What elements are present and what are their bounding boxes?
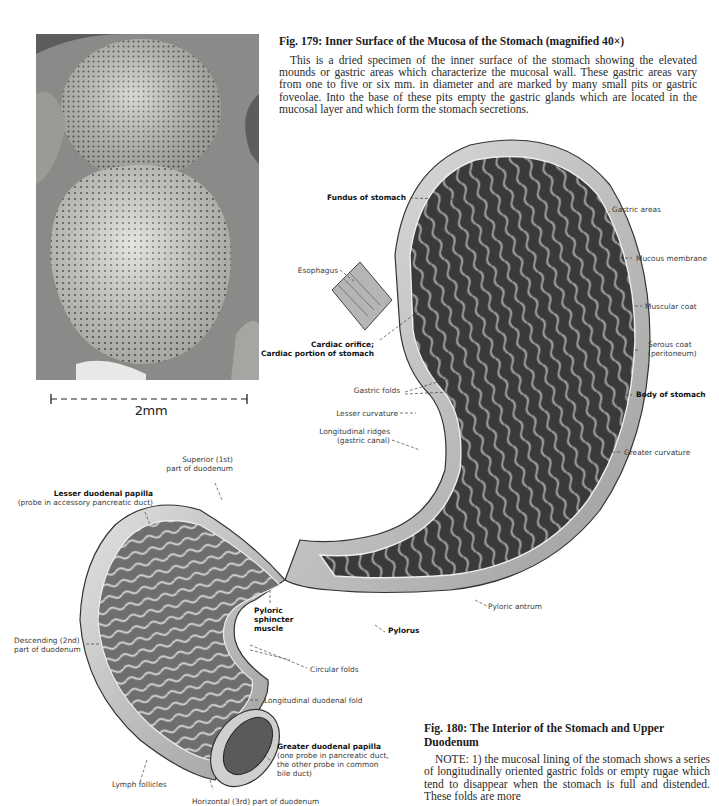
label-gastric-canal: (gastric canal) xyxy=(300,436,390,445)
label-lesser-curvature: Lesser curvature xyxy=(310,409,398,418)
label-pyloric-sphincter-3: muscle xyxy=(254,624,283,633)
label-lesser-papilla-probe: (probe in accessory pancreatic duct) xyxy=(0,498,153,507)
fig179-title: Fig. 179: Inner Surface of the Mucosa of… xyxy=(279,35,719,49)
fig180-title: Fig. 180: The Interior of the Stomach an… xyxy=(424,722,664,750)
label-lesser-duodenal-papilla: Lesser duodenal papilla xyxy=(0,489,153,498)
label-descending-part-1: Descending (2nd) xyxy=(14,636,80,645)
label-greater-papilla-note-3: bile duct) xyxy=(277,769,312,778)
label-esophagus: Esophagus xyxy=(270,266,338,275)
label-peritoneum: (peritoneum) xyxy=(648,349,697,358)
fig180-note: NOTE: 1) the mucosal lining of the stoma… xyxy=(424,753,710,802)
label-body-of-stomach: Body of stomach xyxy=(636,390,706,399)
label-greater-curvature: Greater curvature xyxy=(624,448,690,457)
label-greater-papilla-note-1: (one probe in pancreatic duct, xyxy=(277,751,389,760)
scale-label: 2mm xyxy=(128,403,174,418)
label-pyloric-sphincter-2: sphincter xyxy=(254,615,293,624)
label-greater-papilla-note-2: the other probe in common xyxy=(277,760,378,769)
fig179-description: This is a dried specimen of the inner su… xyxy=(279,54,697,115)
label-gastric-areas: Gastric areas xyxy=(612,205,661,214)
label-mucous-membrane: Mucous membrane xyxy=(636,254,707,263)
label-superior-part-duodenum-2: part of duodenum xyxy=(150,464,233,473)
label-serous-coat: Serous coat xyxy=(648,340,692,349)
label-cardiac-portion: Cardiac portion of stomach xyxy=(260,349,374,358)
label-fundus-of-stomach: Fundus of stomach xyxy=(300,193,406,202)
mucosa-micrograph xyxy=(36,34,259,380)
micrograph-image xyxy=(36,34,259,380)
label-muscular-coat: Muscular coat xyxy=(645,302,697,311)
label-gastric-folds: Gastric folds xyxy=(320,386,400,395)
label-circular-folds: Circular folds xyxy=(310,665,359,674)
label-pylorus: Pylorus xyxy=(388,626,419,635)
label-superior-part-duodenum-1: Superior (1st) xyxy=(150,455,233,464)
label-descending-part-2: part of duodenum xyxy=(14,645,81,654)
label-greater-duodenal-papilla: Greater duodenal papilla xyxy=(277,742,381,751)
label-cardiac-orifice: Cardiac orifice; xyxy=(260,340,374,349)
label-lymph-follicles: Lymph follicles xyxy=(112,780,167,789)
label-horizontal-part-cut-off: Horizontal (3rd) part of duodenum xyxy=(192,797,319,806)
label-longitudinal-duodenal-fold: Longitudinal duodenal fold xyxy=(264,696,363,705)
label-longitudinal-ridges: Longitudinal ridges xyxy=(300,427,390,436)
label-pyloric-antrum: Pyloric antrum xyxy=(488,602,542,611)
label-pyloric-sphincter-1: Pyloric xyxy=(254,606,283,615)
scale-bar xyxy=(50,391,248,403)
